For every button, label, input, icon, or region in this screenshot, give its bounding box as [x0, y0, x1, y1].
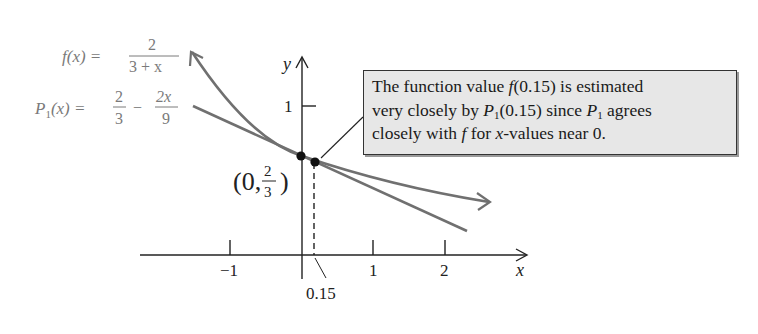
y-axis [296, 57, 308, 279]
point-0-15 [310, 157, 319, 166]
p1-formula-lhs: P1(x) = [34, 99, 85, 120]
p1-formula-minus: − [133, 99, 142, 116]
y-axis-label: y [281, 54, 291, 74]
p1-formula-num2: 2x [156, 88, 171, 105]
dashed-value-label: 0.15 [306, 284, 336, 303]
callout-line-1: The function value f(0.15) is estimated [372, 75, 736, 99]
point-label-den: 3 [264, 184, 272, 200]
ytick-label-1: 1 [284, 97, 293, 116]
point-label-num: 2 [264, 163, 272, 179]
tick-label-neg1: −1 [220, 261, 238, 280]
f-formula-den: 3 + x [129, 58, 162, 75]
p1-formula-num1: 2 [115, 88, 123, 105]
p1-formula-den2: 9 [162, 110, 170, 127]
callout-note: The function value f(0.15) is estimated … [363, 70, 737, 155]
f-formula-lhs: f(x) = [62, 47, 101, 66]
f-formula-num: 2 [148, 36, 156, 53]
p1-formula-den1: 3 [115, 110, 123, 127]
point-zero-label: (0, 2 3 ) [233, 163, 289, 200]
callout-line-2: very closely by P1(0.15) since P1 agrees [372, 99, 736, 123]
callout-line-3: closely with f for x-values near 0. [372, 122, 736, 146]
p1-formula-label: P1(x) = 2 3 − 2x 9 [34, 88, 178, 127]
tick-label-2: 2 [440, 261, 449, 280]
point-zero [296, 151, 305, 160]
chart-canvas: x y −1 1 2 1 0.15 (0, 2 3 ) f(x) = 2 3 +… [0, 0, 758, 334]
x-axis-label: x [515, 260, 524, 280]
point-label-close: ) [280, 167, 289, 196]
f-formula-label: f(x) = 2 3 + x [62, 36, 179, 75]
dashed-label-leader [315, 258, 326, 278]
x-axis [140, 249, 527, 261]
callout-leader [321, 117, 363, 158]
x-ticks [230, 240, 445, 255]
point-label-open: (0, [233, 167, 261, 196]
tick-label-1: 1 [369, 261, 378, 280]
